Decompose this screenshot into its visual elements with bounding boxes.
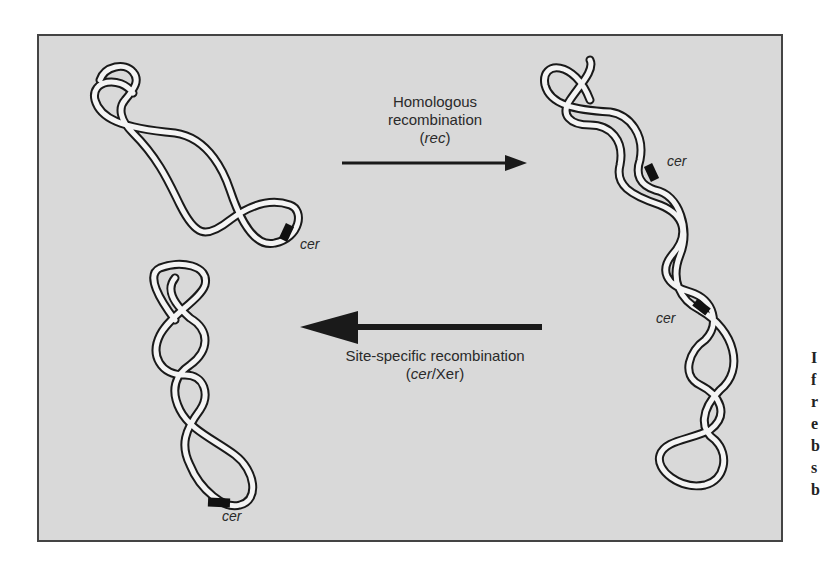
cut-off-body-text: I f r e b s b xyxy=(811,347,824,501)
plasmid-dimer-right xyxy=(545,60,734,486)
cer-label-bottom-left: cer xyxy=(222,508,241,524)
arrow-homologous-recombination xyxy=(342,155,527,171)
label-line-1: Site-specific recombination xyxy=(300,347,570,365)
cer-label-right-upper: cer xyxy=(667,153,686,169)
cer-label-top-left: cer xyxy=(300,236,319,252)
homologous-recombination-label: Homologous recombination (rec) xyxy=(345,93,525,147)
label-line-2: recombination xyxy=(345,111,525,129)
plasmid-monomer-bottom-left xyxy=(154,264,253,505)
site-specific-recombination-label: Site-specific recombination (cer/Xer) xyxy=(300,347,570,383)
cer-label-right-lower: cer xyxy=(656,310,675,326)
plasmid-monomer-top-left xyxy=(94,66,298,243)
label-line-1: Homologous xyxy=(345,93,525,111)
label-line-3: (rec) xyxy=(345,129,525,147)
label-line-2: (cer/Xer) xyxy=(300,365,570,383)
arrow-site-specific-recombination xyxy=(300,311,542,344)
